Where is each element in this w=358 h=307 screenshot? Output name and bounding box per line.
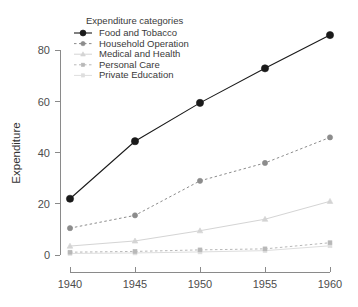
data-point [131, 138, 138, 145]
line-chart: 020406080 19401945195019551960 Expenditu… [0, 0, 358, 307]
data-point [262, 160, 267, 165]
y-tick-label: 80 [38, 44, 50, 56]
data-point [132, 213, 137, 218]
data-point [327, 135, 332, 140]
data-point [328, 241, 332, 245]
x-tick-label: 1960 [318, 278, 342, 290]
legend-item-label: Food and Tobacco [99, 27, 177, 38]
y-tick-label: 60 [38, 96, 50, 108]
data-point [68, 250, 72, 254]
x-tick-label: 1945 [123, 278, 147, 290]
legend-marker [81, 63, 84, 66]
data-point [261, 65, 268, 72]
data-point [67, 226, 72, 231]
legend-title: Expenditure categories [86, 15, 183, 26]
y-tick-label: 20 [38, 198, 50, 210]
legend-item-label: Personal Care [99, 59, 160, 70]
data-point [196, 99, 203, 106]
chart-container: 020406080 19401945195019551960 Expenditu… [0, 0, 358, 307]
y-tick-label: 0 [44, 249, 50, 261]
legend-item-label: Household Operation [99, 38, 189, 49]
data-point [198, 248, 202, 252]
x-tick-label: 1940 [58, 278, 82, 290]
data-point [66, 195, 73, 202]
data-point [263, 247, 267, 251]
data-point [326, 32, 333, 39]
data-point [197, 178, 202, 183]
legend-item-label: Medical and Health [99, 48, 180, 59]
y-tick-label: 40 [38, 147, 50, 159]
legend-marker [80, 30, 86, 36]
legend-marker [81, 41, 85, 45]
x-tick-label: 1955 [253, 278, 277, 290]
y-axis-title: Expenditure [10, 122, 22, 183]
legend-item-label: Private Education [99, 69, 173, 80]
data-point [133, 249, 137, 253]
legend-marker [81, 74, 84, 77]
x-tick-label: 1950 [188, 278, 212, 290]
